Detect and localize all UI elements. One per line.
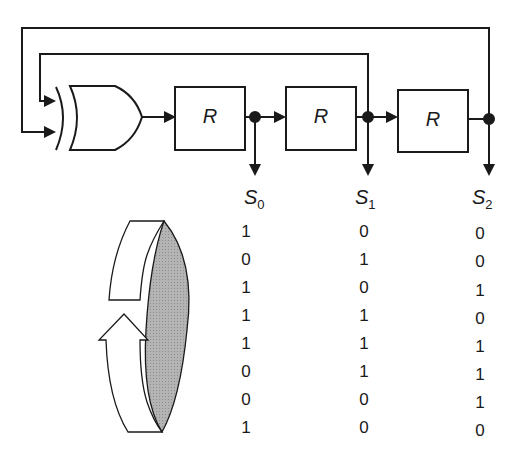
cell-s2: 1 — [470, 337, 490, 357]
cell-s1: 1 — [354, 362, 374, 382]
cell-s0: 0 — [236, 362, 256, 382]
register-2-label: R — [398, 108, 468, 131]
cell-s0: 1 — [236, 278, 256, 298]
cell-s0: 1 — [236, 222, 256, 242]
cell-s1: 1 — [354, 334, 374, 354]
cell-s0: 1 — [236, 418, 256, 438]
cell-s0: 0 — [236, 250, 256, 270]
xor-gate — [56, 86, 142, 150]
cell-s0: 1 — [236, 334, 256, 354]
circular-arrow-ring-icon — [99, 221, 189, 432]
output-label-s0: S0 — [244, 186, 265, 212]
cell-s2: 1 — [470, 365, 490, 385]
cell-s0: 0 — [236, 390, 256, 410]
register-1-label: R — [286, 105, 356, 128]
cell-s1: 1 — [354, 250, 374, 270]
cell-s2: 1 — [470, 393, 490, 413]
register-0-label: R — [175, 105, 245, 128]
cell-s2: 0 — [470, 309, 490, 329]
cell-s1: 0 — [354, 222, 374, 242]
output-label-s2: S2 — [472, 186, 493, 212]
cell-s2: 0 — [470, 421, 490, 441]
cell-s0: 1 — [236, 306, 256, 326]
cell-s1: 0 — [354, 418, 374, 438]
cell-s1: 0 — [354, 278, 374, 298]
cell-s2: 0 — [470, 224, 490, 244]
cell-s1: 0 — [354, 390, 374, 410]
cell-s2: 1 — [470, 281, 490, 301]
cell-s2: 0 — [470, 252, 490, 272]
cell-s1: 1 — [354, 306, 374, 326]
output-label-s1: S1 — [355, 186, 376, 212]
